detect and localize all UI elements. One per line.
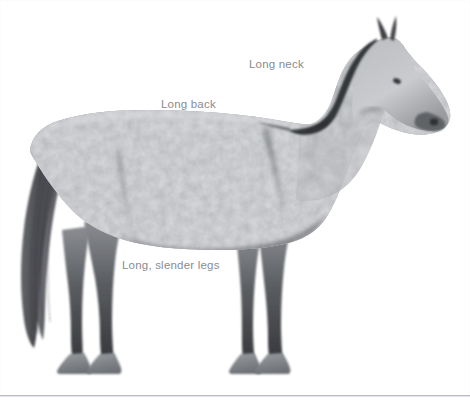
horse-hind-legs	[62, 220, 123, 362]
horse-illustration	[0, 0, 470, 403]
annotation-long-slender-legs: Long, slender legs	[122, 260, 220, 272]
annotation-long-back: Long back	[161, 99, 216, 111]
horse-ears	[377, 16, 396, 41]
horse-anatomy-figure: Long neck Long back Long, slender legs	[0, 0, 470, 403]
horse-hooves	[57, 353, 290, 374]
annotation-long-neck: Long neck	[249, 59, 304, 71]
